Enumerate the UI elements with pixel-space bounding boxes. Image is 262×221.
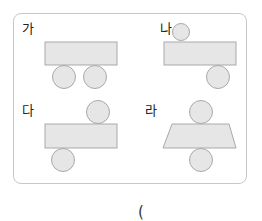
- answer-blank: (: [138, 203, 144, 221]
- rectangle-shape: [164, 42, 236, 65]
- circle-shape: [207, 66, 230, 89]
- circle-shape: [190, 101, 213, 124]
- circle-shape: [84, 66, 107, 89]
- net-na: [164, 24, 236, 89]
- net-ra: [163, 101, 236, 172]
- circle-shape: [173, 24, 190, 41]
- rectangle-shape: [45, 42, 117, 65]
- net-ga: [45, 42, 117, 89]
- circle-shape: [190, 149, 213, 172]
- circle-shape: [52, 149, 75, 172]
- circle-shape: [87, 101, 110, 124]
- circle-shape: [53, 66, 76, 89]
- rectangle-shape: [45, 124, 117, 148]
- net-da: [45, 101, 117, 172]
- trapezoid-shape: [163, 124, 236, 148]
- net-figures: [0, 0, 262, 221]
